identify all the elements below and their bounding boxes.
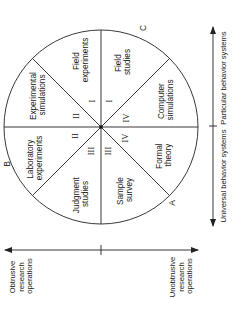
research-operations-axis: Obtrusive research operations Unobtrusiv… <box>5 245 198 297</box>
unobtrusive-research-operations-label: Unobtrusive research operations <box>168 255 194 298</box>
behavior-systems-axis: Particular behavior systems Universal be… <box>209 27 228 226</box>
sector-label-field-studies: Field studies <box>114 49 132 75</box>
sector-label-field-experiments: Field experiments <box>72 38 90 83</box>
point-label-b: B <box>2 161 12 167</box>
sector-label-sample-survey: Sample survey <box>116 175 134 205</box>
numeral-formal-theory: IV <box>120 133 130 143</box>
numeral-sample-survey: III <box>103 147 113 156</box>
numeral-judgment-studies: III <box>86 147 96 156</box>
numeral-field-studies: I <box>104 99 114 102</box>
center-dot <box>99 125 103 129</box>
sector-label-judgment-studies: Judgment studies <box>72 175 90 213</box>
numeral-computer-simulations: IV <box>121 113 131 123</box>
particular-behavior-systems-label: Particular behavior systems <box>219 31 228 124</box>
sector-label-laboratory-experiments: Laboratory experiments <box>26 136 44 181</box>
sector-label-formal-theory: Formal theory <box>155 141 173 169</box>
circle-diagram <box>4 30 198 224</box>
numeral-laboratory-experiments: II <box>70 133 80 139</box>
sector-label-computer-simulations: Computer simulations <box>157 80 175 121</box>
numeral-experimental-simulations: II <box>71 113 81 119</box>
obtrusive-research-operations-label: Obtrusive research operations <box>8 258 34 294</box>
sector-label-experimental-simulations: Experimental simulations <box>29 70 47 120</box>
research-strategies-diagram: Experimental simulations Field experimen… <box>0 0 234 322</box>
point-label-a: A <box>167 200 177 206</box>
universal-behavior-systems-label: Universal behavior systems <box>219 129 228 222</box>
point-label-c: C <box>138 25 148 31</box>
numeral-field-experiments: I <box>87 99 97 102</box>
